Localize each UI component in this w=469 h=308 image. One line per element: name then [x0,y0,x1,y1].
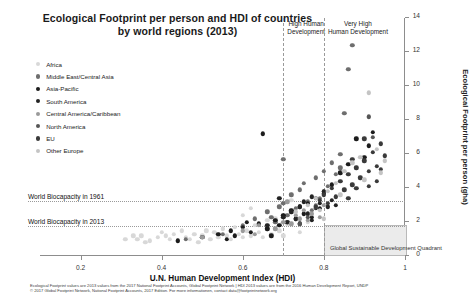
y-tick [405,153,409,154]
data-point [370,130,374,134]
data-point [322,216,326,220]
data-point [188,237,192,241]
data-point [123,237,127,241]
footnote-line-2: © 2017 Global Footprint Network, Nationa… [30,288,450,293]
very-high-human-development-label: Very HighHuman Development [328,20,388,35]
data-point [362,137,366,141]
data-point [366,91,370,95]
data-point [253,216,257,220]
y-tick-label: 4 [416,182,420,189]
data-point [334,203,338,207]
data-point [350,43,354,47]
data-point [139,233,143,237]
data-point [176,239,180,243]
data-point [269,233,273,237]
data-point [346,172,350,176]
data-point [297,216,301,220]
data-point [330,160,334,164]
data-point [285,199,289,203]
data-point [192,232,196,236]
data-point [366,114,370,118]
data-point [301,181,305,185]
data-point [354,165,358,169]
data-point [374,179,378,183]
data-point [232,233,236,237]
data-point [366,143,370,147]
data-point [216,235,220,239]
data-point [228,237,232,241]
data-point [354,186,358,190]
world-biocapacity-2013-line [28,226,405,227]
data-point [261,131,265,135]
data-point [322,193,326,197]
data-point [265,210,269,214]
data-point [180,228,184,232]
data-point [374,147,378,151]
band-label-line-2: Human Development [328,28,388,35]
data-point [143,240,147,244]
data-point [196,240,200,244]
data-point [220,227,224,231]
data-point [342,188,346,192]
y-tick-label: 10 [413,80,420,87]
data-point [322,169,326,173]
sustainable-quadrant-region [324,225,407,256]
data-point [370,135,374,139]
data-point [318,208,322,212]
data-point [314,176,318,180]
data-point [204,228,208,232]
x-tick-label: 1 [403,264,407,271]
world-biocapacity-1961-line [28,201,405,202]
data-point [208,237,212,241]
data-point [265,218,269,222]
data-point [281,233,285,237]
data-point [241,228,245,232]
x-tick-label: 0.6 [238,264,247,271]
data-point [281,215,285,219]
data-point [245,220,249,224]
data-point [383,159,387,163]
data-point [172,232,176,236]
y-tick-label: 14 [413,12,420,19]
data-point [265,227,269,231]
data-point [261,235,265,239]
data-point [241,235,245,239]
x-tick [405,256,406,260]
x-tick [243,256,244,260]
footnote: Ecological Footprint values are 2013 val… [30,283,450,294]
data-point [362,177,366,181]
y-tick-label: 2 [416,216,420,223]
x-tick [324,256,325,260]
y-tick-label: 0 [416,250,420,257]
band-label-line-2: Development [287,28,325,35]
data-point [232,225,236,229]
data-point [326,205,330,209]
data-point [168,237,172,241]
data-point [378,142,382,146]
y-tick-label: 12 [413,46,420,53]
x-tick-label: 0.8 [319,264,328,271]
data-point [253,232,257,236]
data-point [310,218,314,222]
band-label-line-1: High Human [288,20,324,27]
y-tick [405,255,409,256]
data-point [338,152,342,156]
data-point [338,193,342,197]
x-tick [81,256,82,260]
chart-root: Ecological Footprint per person and HDI … [0,0,469,308]
data-point [249,206,253,210]
data-point [155,235,159,239]
data-point [346,67,350,71]
data-point [281,157,285,161]
y-tick-label: 8 [416,114,420,121]
data-point [370,150,374,154]
band-label-line-1: Very High [344,20,372,27]
data-point [366,184,370,188]
data-point [257,230,261,234]
x-axis-label: U.N. Human Development Index (HDI) [150,274,296,283]
data-point [362,159,366,163]
x-tick [162,256,163,260]
data-point [297,230,301,234]
data-point [147,239,151,243]
data-point [305,203,309,207]
